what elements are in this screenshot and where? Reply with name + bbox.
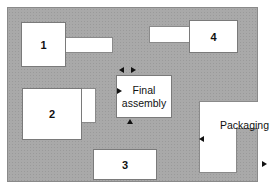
arrow-left-icon (199, 136, 204, 142)
department-3: 3 (93, 149, 157, 180)
final-assembly-label: Final assembly (122, 84, 166, 110)
department-2-extension (81, 88, 96, 123)
final-assembly: Final assembly (116, 75, 172, 118)
department-3-label: 3 (122, 159, 128, 171)
packaging-label: Packaging (220, 119, 269, 131)
arrow-up-icon (127, 119, 133, 124)
arrow-right-icon (117, 88, 122, 94)
exit-arrow-icon (262, 161, 267, 167)
department-1-extension (65, 37, 113, 53)
department-1-label: 1 (40, 39, 46, 51)
department-4-extension (149, 26, 190, 43)
department-2: 2 (22, 88, 82, 140)
department-4-label: 4 (210, 31, 216, 43)
arrow-left-icon (119, 67, 124, 73)
department-1: 1 (21, 22, 66, 67)
department-2-label: 2 (49, 108, 55, 120)
department-4: 4 (189, 20, 238, 53)
arrow-right-icon (131, 67, 136, 73)
